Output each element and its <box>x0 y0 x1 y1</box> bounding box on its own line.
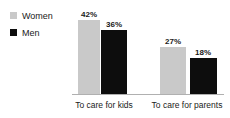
bar-men-kids <box>101 30 127 94</box>
bar-value-men-kids: 36% <box>97 20 131 29</box>
bar-women-parents <box>160 47 186 94</box>
x-axis-line <box>72 94 224 95</box>
bar-value-women-parents: 27% <box>156 37 190 46</box>
bar-chart: Women Men 42% 36% 27% 18% To care for ki… <box>0 0 230 118</box>
plot-area: 42% 36% 27% 18% To care for kids To care… <box>0 0 230 118</box>
category-label-kids: To care for kids <box>64 100 144 110</box>
bar-value-men-parents: 18% <box>186 48 220 57</box>
category-label-parents: To care for parents <box>142 100 230 110</box>
bar-value-women-kids: 42% <box>72 10 106 19</box>
bar-men-parents <box>190 58 217 94</box>
bar-women-kids <box>78 20 100 94</box>
